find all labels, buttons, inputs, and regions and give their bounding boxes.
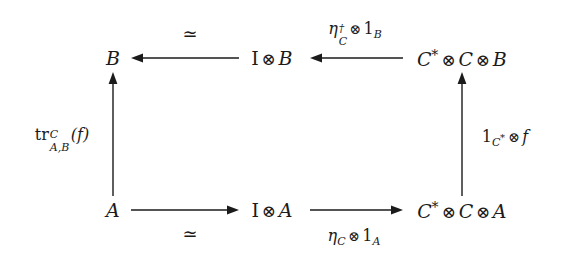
otimes-icon: ⊗ bbox=[473, 202, 492, 222]
otimes-icon: ⊗ bbox=[259, 201, 278, 221]
identity-one: 1 bbox=[364, 19, 374, 38]
object-C: C bbox=[459, 48, 474, 70]
identity-subscript-B: B bbox=[374, 28, 382, 41]
unit-object-I: I bbox=[251, 47, 259, 69]
node-B-label: B bbox=[106, 47, 120, 69]
trace-operator-name: tr bbox=[35, 125, 49, 144]
morphism-f: f bbox=[522, 127, 528, 146]
identity-one: 1 bbox=[482, 127, 492, 146]
object-C: C bbox=[459, 200, 474, 222]
object-B: B bbox=[493, 48, 507, 70]
star-icon: * bbox=[431, 47, 438, 63]
star-icon: * bbox=[431, 199, 438, 215]
otimes-icon: ⊗ bbox=[259, 49, 278, 69]
node-Cstar-tensor-C-tensor-A: C*⊗C⊗A bbox=[417, 198, 507, 222]
otimes-icon: ⊗ bbox=[346, 227, 363, 243]
commutative-diagram: B I⊗B C*⊗C⊗B A I⊗A C*⊗C⊗A bbox=[0, 0, 563, 263]
unit-object-I: I bbox=[251, 199, 259, 221]
object-C-dual: C bbox=[417, 200, 432, 222]
identity-subscript-A: A bbox=[372, 235, 380, 248]
top-left-arrow-label-simeq: ≃ bbox=[182, 23, 197, 44]
trace-subscript-AB: A,B bbox=[50, 141, 70, 154]
trace-superscript-C: C bbox=[50, 128, 58, 141]
node-A-label: A bbox=[106, 199, 120, 221]
otimes-icon: ⊗ bbox=[473, 50, 492, 70]
identity-subscript-C-dual: C* bbox=[492, 136, 505, 149]
node-B: B bbox=[106, 47, 120, 69]
node-A: A bbox=[106, 199, 120, 221]
otimes-icon: ⊗ bbox=[505, 128, 522, 144]
bottom-right-arrow bbox=[310, 204, 403, 216]
object-A: A bbox=[279, 199, 293, 221]
bottom-right-arrow-label: ηC⊗1A bbox=[328, 226, 381, 245]
node-I-tensor-A: I⊗A bbox=[251, 199, 292, 221]
top-right-arrow bbox=[310, 52, 403, 64]
eta-subscript-C: C bbox=[337, 235, 345, 248]
trace-argument: (f) bbox=[71, 125, 89, 144]
star-icon: * bbox=[500, 132, 505, 143]
top-right-arrow-label: η†C⊗1B bbox=[328, 19, 382, 38]
object-B: B bbox=[279, 47, 293, 69]
left-vertical-arrow-label: trCA,B(f) bbox=[35, 125, 89, 144]
object-A: A bbox=[493, 200, 507, 222]
object-C-dual: C bbox=[417, 48, 432, 70]
identity-one: 1 bbox=[362, 226, 372, 245]
node-Cstar-tensor-C-tensor-B: C*⊗C⊗B bbox=[417, 46, 507, 70]
dagger-icon: † bbox=[339, 22, 345, 35]
node-I-tensor-B: I⊗B bbox=[251, 47, 292, 69]
eta-symbol: η bbox=[328, 19, 338, 38]
eta-symbol: η bbox=[328, 226, 338, 245]
right-vertical-arrow-label: 1C*⊗f bbox=[482, 127, 528, 146]
right-vertical-arrow bbox=[456, 72, 468, 196]
bottom-left-arrow bbox=[131, 204, 239, 216]
otimes-icon: ⊗ bbox=[347, 20, 364, 36]
top-left-arrow bbox=[131, 52, 239, 64]
bottom-left-arrow-label-simeq: ≃ bbox=[182, 223, 197, 244]
otimes-icon: ⊗ bbox=[439, 202, 458, 222]
otimes-icon: ⊗ bbox=[439, 50, 458, 70]
left-vertical-arrow bbox=[107, 72, 119, 196]
eta-subscript-C: C bbox=[339, 35, 347, 48]
